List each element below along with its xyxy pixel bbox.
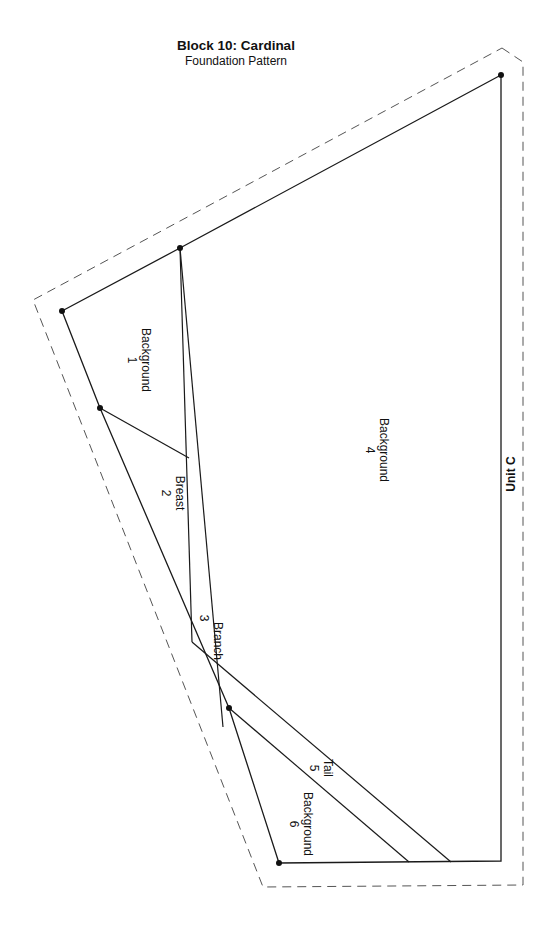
piece-number: 5 bbox=[307, 765, 321, 772]
piece-label-2: 2 Breast bbox=[159, 476, 187, 511]
vertex-dot bbox=[498, 72, 504, 78]
unit-outline bbox=[62, 75, 501, 863]
vertex-dot bbox=[226, 705, 232, 711]
vertex-dot bbox=[59, 308, 65, 314]
vertex-dot bbox=[97, 405, 103, 411]
piece-name: Background bbox=[377, 418, 391, 482]
piece-name: Tail bbox=[321, 759, 335, 777]
vertex-dot bbox=[177, 245, 183, 251]
piece-number: 1 bbox=[125, 357, 139, 364]
piece-label-4: 4 Background bbox=[363, 418, 391, 482]
piece-label-5: 5 Tail bbox=[307, 759, 335, 777]
unit-label-text: Unit C bbox=[504, 456, 518, 492]
piece-name: Background bbox=[301, 792, 315, 856]
seam-line-3-5 bbox=[192, 642, 451, 862]
piece-number: 2 bbox=[159, 490, 173, 497]
vertex-dot bbox=[276, 860, 282, 866]
piece-label-1: 1 Background bbox=[125, 328, 153, 392]
piece-name: Background bbox=[139, 328, 153, 392]
seam-line-5-6 bbox=[229, 708, 409, 862]
piece-name: Breast bbox=[173, 476, 187, 511]
piece-label-6: 6 Background bbox=[287, 792, 315, 856]
piece-number: 4 bbox=[363, 447, 377, 454]
seam-allowance-outline bbox=[33, 48, 523, 887]
piece-number: 6 bbox=[287, 821, 301, 828]
unit-label: Unit C bbox=[504, 456, 518, 492]
piece-label-3: 3 Branch bbox=[197, 615, 225, 660]
seam-line-branch-left bbox=[180, 248, 192, 642]
piece-name: Branch bbox=[211, 622, 225, 660]
foundation-pattern-diagram: 1 Background 2 Breast 3 Branch 4 Backgro… bbox=[0, 0, 556, 933]
seam-line-1-2 bbox=[100, 408, 189, 458]
piece-number: 3 bbox=[197, 615, 211, 622]
